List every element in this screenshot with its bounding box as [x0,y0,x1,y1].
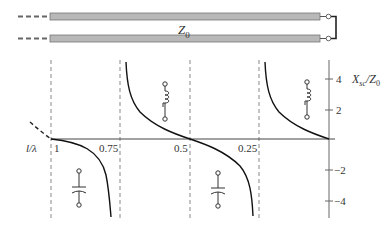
x-tick-025: 0.25 [238,143,257,154]
y-axis-label: Xsc/Z0 [352,73,380,88]
short-circuit-wire [331,17,336,39]
y-tick-2: 2 [336,105,342,116]
inductor-icon [305,80,311,119]
axes [51,60,335,218]
transmission-line [18,13,336,42]
impedance-label: Z0 [178,23,190,40]
y-tick-neg2: −2 [334,165,346,176]
capacitor-icon [211,171,225,208]
y-label-den: /Z [366,72,376,86]
upper-conductor [50,13,320,20]
inductor-icon [163,82,169,121]
capacitor-icon [72,169,86,207]
diagram-canvas [0,0,392,226]
y-tick-4: 4 [336,74,342,85]
y-label-den-sub: 0 [376,79,380,88]
impedance-subscript: 0 [185,30,190,40]
y-label-sub: sc [359,79,366,88]
x-axis-label: l/λ [26,143,37,154]
y-tick-neg4: −4 [334,196,346,207]
x-tick-075: 0.75 [99,143,118,154]
x-tick-05: 0.5 [174,143,188,154]
x-tick-1: 1 [54,143,60,154]
